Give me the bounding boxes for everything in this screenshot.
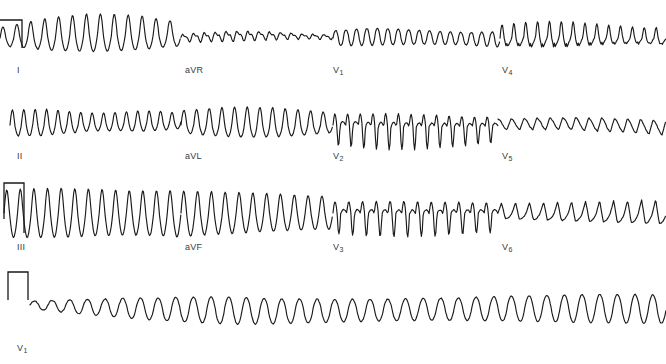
calibration-pulse-group [0,20,28,300]
lead-label-v3: V3 [333,243,343,252]
ecg-trace-v2 [333,113,498,150]
lead-label-subscript: 3 [340,246,344,253]
lead-label-avr: aVR [185,66,203,75]
lead-label-i: I [17,66,20,75]
lead-label-v5: V5 [502,152,512,161]
ecg-trace-avr [181,31,332,42]
lead-label-ii: II [17,152,22,161]
lead-label-avf: aVF [185,243,202,252]
lead-label-iii: III [17,243,25,252]
lead-label-subscript: 4 [509,69,513,76]
ecg-trace-iii [4,188,181,237]
lead-label-avl: aVL [185,152,202,161]
ecg-trace-ii [10,109,181,136]
ecg-trace-avl [181,107,332,137]
lead-label-v6: V6 [502,243,512,252]
lead-label-subscript: 1 [24,347,28,354]
lead-label-subscript: 6 [509,246,513,253]
ecg-trace-v1-rhythm [30,294,666,324]
ecg-traces [0,0,666,364]
ecg-trace-v4 [500,21,666,47]
ecg-trace-v6 [498,200,665,224]
ecg-trace-avf [181,191,332,236]
lead-label-v2: V2 [333,152,343,161]
calibration-pulse-v1-rhythm [8,272,28,300]
lead-label-subscript: 5 [509,155,513,162]
calibration-pulse-i [0,20,22,48]
lead-label-subscript: 1 [340,69,344,76]
lead-label-v1-rhythm: V1 [17,344,27,353]
ecg-trace-v5 [498,118,665,135]
ecg-page: IaVRV1V4IIaVLV2V5IIIaVFV3V6V1 [0,0,666,364]
lead-label-v4: V4 [502,66,512,75]
lead-label-v1: V1 [333,66,343,75]
ecg-trace-v1 [333,28,500,47]
ecg-trace-i [0,14,180,52]
lead-label-subscript: 2 [340,155,344,162]
waveform-group [0,14,666,325]
ecg-trace-v3 [333,201,498,237]
